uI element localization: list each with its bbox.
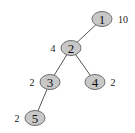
node-weight-label: 2 bbox=[30, 77, 35, 88]
tree-diagram: 11024324252 bbox=[0, 0, 135, 133]
node-weight-label: 10 bbox=[118, 14, 128, 25]
edges bbox=[35, 19, 102, 118]
node-label: 5 bbox=[32, 111, 39, 126]
tree-node-4: 42 bbox=[85, 75, 116, 91]
node-label: 3 bbox=[47, 75, 54, 90]
tree-node-2: 24 bbox=[51, 41, 82, 57]
node-weight-label: 2 bbox=[111, 77, 116, 88]
tree-node-5: 52 bbox=[15, 111, 46, 127]
node-label: 4 bbox=[92, 75, 99, 90]
node-label: 1 bbox=[99, 12, 106, 27]
node-label: 2 bbox=[68, 41, 75, 56]
node-weight-label: 2 bbox=[15, 113, 20, 124]
node-weight-label: 4 bbox=[51, 43, 56, 54]
tree-node-1: 110 bbox=[92, 12, 128, 28]
nodes: 11024324252 bbox=[15, 12, 129, 127]
tree-node-3: 32 bbox=[30, 75, 61, 91]
